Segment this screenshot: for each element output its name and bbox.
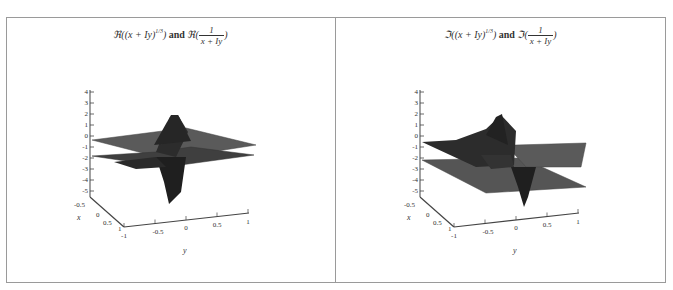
plot-panel-real: ℜ((x + Iy)1/3) and ℜ(1x + Iy) 4 3 2 1 0 … <box>6 17 335 283</box>
svg-text:0.5: 0.5 <box>103 219 112 227</box>
svg-text:x: x <box>406 213 411 222</box>
svg-text:-4: -4 <box>82 176 88 184</box>
svg-text:-0.5: -0.5 <box>404 201 416 209</box>
svg-text:-2: -2 <box>82 154 88 162</box>
svg-text:4: 4 <box>415 88 419 96</box>
svg-text:1: 1 <box>246 218 250 226</box>
svg-text:y: y <box>182 246 187 255</box>
svg-text:-4: -4 <box>412 176 418 184</box>
svg-text:4: 4 <box>85 88 89 96</box>
svg-text:0.5: 0.5 <box>213 221 222 229</box>
svg-text:1: 1 <box>415 121 419 129</box>
svg-text:-1: -1 <box>451 232 457 240</box>
svg-text:0: 0 <box>184 224 188 232</box>
svg-text:-0.5: -0.5 <box>482 228 494 236</box>
svg-text:0: 0 <box>426 211 430 219</box>
svg-text:3: 3 <box>415 99 419 107</box>
svg-text:2: 2 <box>415 110 419 118</box>
svg-text:0.5: 0.5 <box>543 221 552 229</box>
svg-text:1: 1 <box>576 218 580 226</box>
svg-text:-1: -1 <box>121 232 127 240</box>
svg-text:-5: -5 <box>82 187 88 195</box>
svg-text:-0.5: -0.5 <box>152 228 164 236</box>
svg-text:0: 0 <box>85 132 89 140</box>
svg-text:-2: -2 <box>412 154 418 162</box>
svg-text:0: 0 <box>415 132 419 140</box>
svg-text:0: 0 <box>96 211 100 219</box>
svg-text:-3: -3 <box>412 165 418 173</box>
svg-text:-1: -1 <box>82 143 88 151</box>
svg-text:0: 0 <box>514 224 518 232</box>
svg-text:2: 2 <box>85 110 89 118</box>
svg-text:0.5: 0.5 <box>433 219 442 227</box>
plot-panel-imag: ℑ((x + Iy)1/3) and ℑ(1x + Iy) 4 3 2 1 0 … <box>336 17 665 283</box>
svg-text:3: 3 <box>85 99 89 107</box>
svg-text:-1: -1 <box>412 143 418 151</box>
surface-plot-real: 4 3 2 1 0 -1 -2 -3 -4 -5 -0.5 0 0.5 1 x … <box>6 17 335 283</box>
svg-text:-5: -5 <box>412 187 418 195</box>
svg-text:1: 1 <box>85 121 89 129</box>
svg-text:x: x <box>76 213 81 222</box>
svg-text:-0.5: -0.5 <box>74 201 86 209</box>
svg-text:y: y <box>512 246 517 255</box>
surface-plot-imag: 4 3 2 1 0 -1 -2 -3 -4 -5 -0.5 0 0.5 1 x … <box>336 17 665 283</box>
svg-text:-3: -3 <box>82 165 88 173</box>
